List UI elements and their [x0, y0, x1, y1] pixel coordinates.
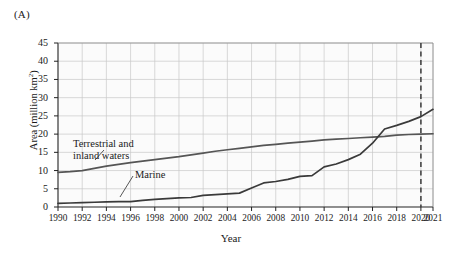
marine-series-label: Marine [135, 169, 165, 181]
plot-area [0, 0, 462, 257]
plot-background [58, 43, 433, 207]
terrestrial-label-line2: inland waters [73, 150, 129, 161]
terrestrial-label-line1: Terrestrial and [73, 138, 134, 149]
chart-figure: (A) Area (million km2) Year 051015202530… [0, 0, 462, 257]
terrestrial-series-label: Terrestrial and inland waters [73, 138, 134, 161]
